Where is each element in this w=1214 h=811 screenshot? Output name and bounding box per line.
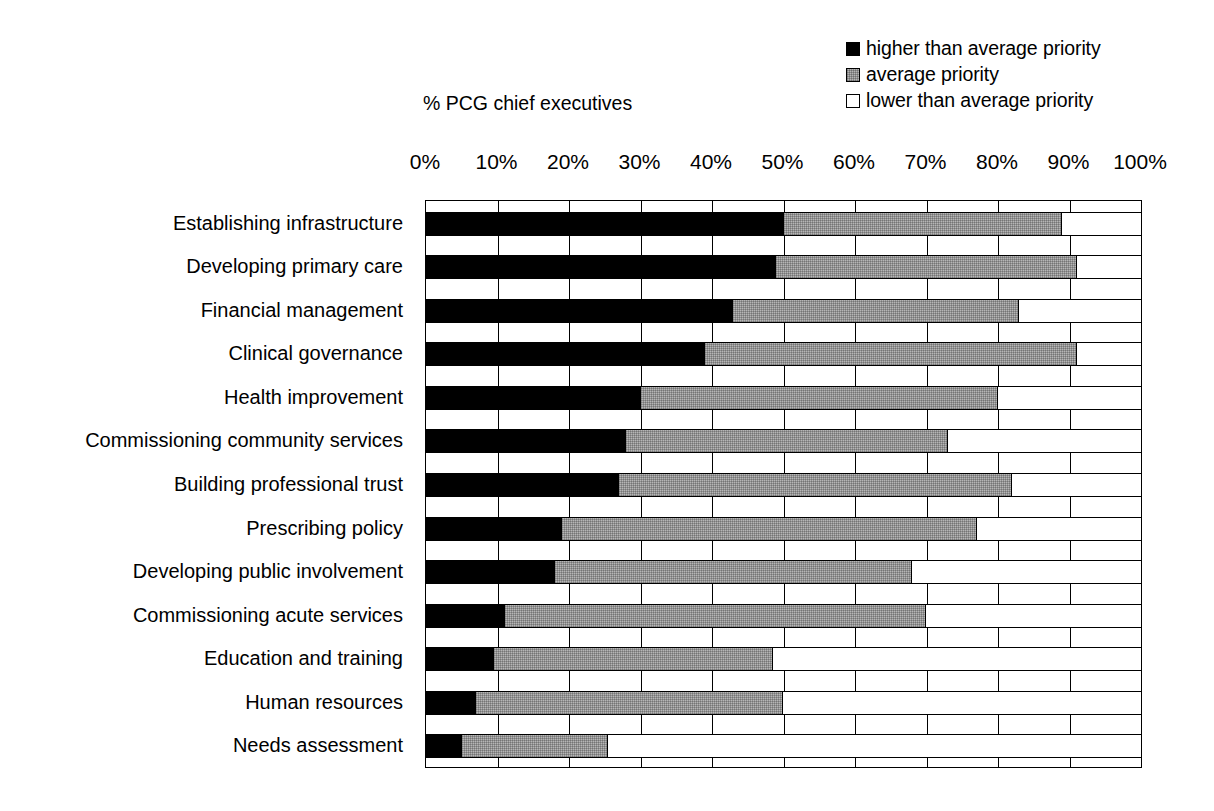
bar-segment-lower	[977, 517, 1141, 541]
category-label: Financial management	[201, 298, 403, 321]
x-tick-label: 80%	[976, 150, 1018, 174]
category-label: Developing primary care	[186, 255, 403, 278]
bar-row	[426, 734, 1141, 758]
x-tick-label: 10%	[475, 150, 517, 174]
bar-segment-average	[494, 647, 773, 671]
bar-segment-higher	[426, 473, 619, 497]
bar-row	[426, 299, 1141, 323]
bar-segment-average	[776, 255, 1076, 279]
legend-item-average: average priority	[846, 62, 1206, 88]
chart-plot-area	[425, 200, 1142, 768]
bar-segment-lower	[926, 604, 1141, 628]
hatched-square-icon	[846, 68, 860, 82]
bar-row	[426, 212, 1141, 236]
bar-segment-average	[626, 429, 948, 453]
bar-segment-lower	[948, 429, 1141, 453]
bar-segment-higher	[426, 342, 705, 366]
bar-row	[426, 386, 1141, 410]
bar-segment-higher	[426, 429, 626, 453]
category-label: Building professional trust	[174, 473, 403, 496]
bar-segment-average	[784, 212, 1063, 236]
bar-segment-average	[505, 604, 927, 628]
bar-segment-average	[733, 299, 1019, 323]
category-label: Needs assessment	[233, 734, 403, 757]
bar-segment-higher	[426, 604, 505, 628]
bar-segment-lower	[783, 691, 1141, 715]
bar-row	[426, 647, 1141, 671]
legend-label-higher: higher than average priority	[866, 39, 1101, 59]
bar-segment-lower	[1062, 212, 1141, 236]
x-tick-label: 90%	[1047, 150, 1089, 174]
legend-label-lower: lower than average priority	[866, 91, 1093, 111]
bar-row	[426, 604, 1141, 628]
x-tick-label: 100%	[1113, 150, 1167, 174]
x-axis-caption: % PCG chief executives	[423, 92, 632, 115]
bar-segment-higher	[426, 255, 776, 279]
bar-segment-higher	[426, 517, 562, 541]
x-tick-label: 40%	[690, 150, 732, 174]
filled-square-icon	[846, 42, 860, 56]
bar-segment-lower	[1019, 299, 1141, 323]
category-label: Health improvement	[224, 385, 403, 408]
bar-segment-lower	[912, 560, 1141, 584]
x-tick-label: 0%	[410, 150, 440, 174]
x-tick-label: 70%	[904, 150, 946, 174]
chart-legend: higher than average priority average pri…	[846, 36, 1206, 114]
bar-row	[426, 691, 1141, 715]
bar-segment-lower	[773, 647, 1141, 671]
bar-segment-higher	[426, 386, 641, 410]
category-label: Human resources	[245, 690, 403, 713]
bar-segment-average	[476, 691, 783, 715]
bar-segment-average	[562, 517, 977, 541]
bar-segment-lower	[998, 386, 1141, 410]
category-label: Clinical governance	[228, 342, 403, 365]
category-label: Commissioning acute services	[133, 603, 403, 626]
bar-segment-lower	[1077, 255, 1141, 279]
x-tick-label: 50%	[761, 150, 803, 174]
bar-segment-average	[462, 734, 609, 758]
y-axis-category-labels: Establishing infrastructureDeveloping pr…	[0, 200, 414, 766]
bar-segment-higher	[426, 647, 494, 671]
category-label: Establishing infrastructure	[173, 211, 403, 234]
category-label: Prescribing policy	[246, 516, 403, 539]
bar-segment-lower	[1077, 342, 1141, 366]
bar-segment-average	[555, 560, 913, 584]
legend-label-average: average priority	[866, 65, 999, 85]
bar-segment-average	[619, 473, 1012, 497]
bar-row	[426, 255, 1141, 279]
bar-segment-higher	[426, 299, 733, 323]
bar-segment-higher	[426, 691, 476, 715]
legend-item-lower: lower than average priority	[846, 88, 1206, 114]
x-tick-label: 60%	[833, 150, 875, 174]
category-label: Developing public involvement	[133, 560, 403, 583]
bar-row	[426, 429, 1141, 453]
legend-item-higher: higher than average priority	[846, 36, 1206, 62]
category-label: Education and training	[204, 647, 403, 670]
bar-row	[426, 473, 1141, 497]
category-label: Commissioning community services	[85, 429, 403, 452]
bar-segment-higher	[426, 560, 555, 584]
bar-segment-average	[641, 386, 999, 410]
empty-square-icon	[846, 94, 860, 108]
bar-segment-average	[705, 342, 1077, 366]
bar-segment-lower	[1012, 473, 1141, 497]
x-axis-tick-labels: 0%10%20%30%40%50%60%70%80%90%100%	[425, 150, 1140, 176]
x-tick-label: 30%	[618, 150, 660, 174]
bar-row	[426, 342, 1141, 366]
bar-row	[426, 560, 1141, 584]
x-tick-label: 20%	[547, 150, 589, 174]
bar-segment-higher	[426, 734, 462, 758]
bar-row	[426, 517, 1141, 541]
bar-segment-higher	[426, 212, 784, 236]
bar-segment-lower	[608, 734, 1141, 758]
